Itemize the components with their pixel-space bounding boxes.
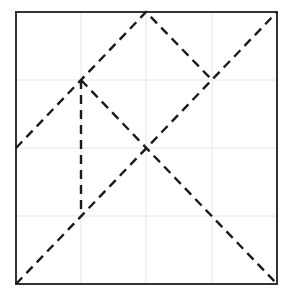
dashed-line-diagram — [0, 0, 286, 293]
diagonal-left-top-to-bottom-right-line — [81, 80, 277, 284]
